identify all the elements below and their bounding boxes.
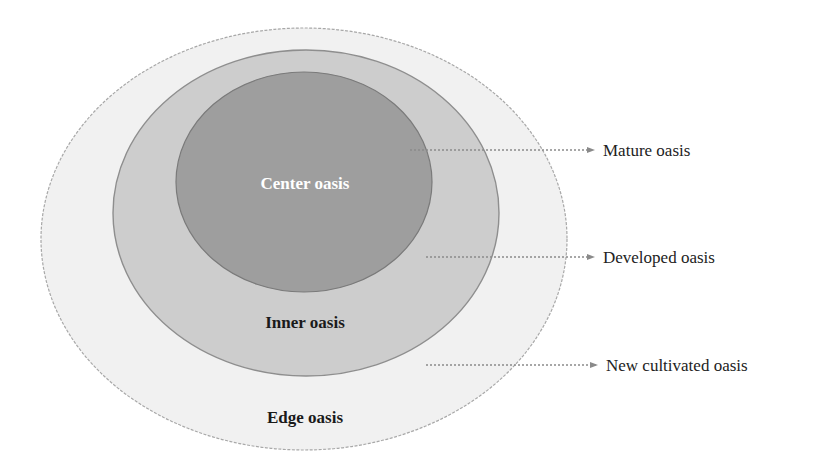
edge-oasis-label: Edge oasis <box>267 408 343 427</box>
oasis-zones-diagram: Center oasis Inner oasis Edge oasis Matu… <box>0 0 820 471</box>
inner-oasis-label: Inner oasis <box>265 313 345 332</box>
new-cultivated-oasis-label: New cultivated oasis <box>606 356 748 375</box>
mature-oasis-label: Mature oasis <box>603 141 690 160</box>
center-oasis-label: Center oasis <box>261 174 350 193</box>
developed-oasis-label: Developed oasis <box>603 248 715 267</box>
